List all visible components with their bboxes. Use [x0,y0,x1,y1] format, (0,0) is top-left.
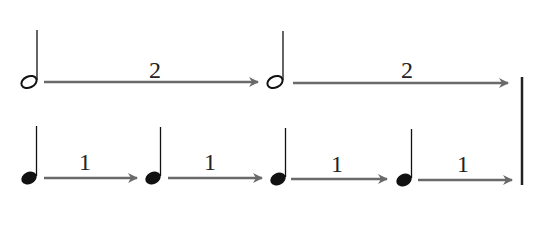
duration-label: 1 [331,152,343,176]
half-note-2 [265,31,284,90]
half-note-1 [19,30,38,90]
duration-label: 1 [457,152,469,176]
quarter-note-4 [394,129,414,189]
quarter-note-1 [19,126,39,187]
duration-label: 1 [79,150,91,174]
quarter-note-3 [268,128,288,188]
quarter-note-2 [143,127,163,187]
duration-label: 2 [401,58,413,82]
duration-label: 2 [149,58,161,82]
rhythm-diagram [0,0,544,248]
duration-label: 1 [204,150,216,174]
